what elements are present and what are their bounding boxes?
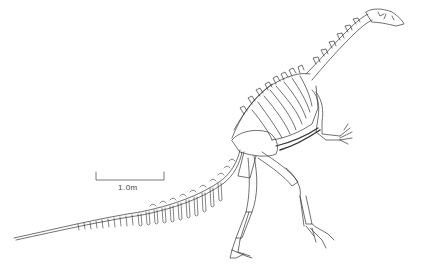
ribcage: [232, 65, 320, 150]
scale-bar-label: 1.0m: [118, 183, 138, 192]
neck-skull: [306, 9, 404, 80]
tail: [14, 150, 242, 240]
forelimb: [312, 90, 352, 144]
figure-canvas: 1.0m: [0, 0, 430, 269]
scale-bar: [96, 172, 164, 180]
skeleton-drawing: [0, 0, 430, 269]
